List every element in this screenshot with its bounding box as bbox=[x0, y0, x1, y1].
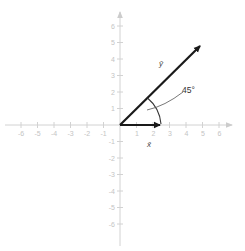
y-tick-label: -6 bbox=[109, 221, 115, 228]
x-tick-label: -3 bbox=[67, 130, 73, 137]
y-tick-label: -1 bbox=[109, 138, 115, 145]
x-tick-label: -6 bbox=[18, 130, 24, 137]
y-tick-label: 4 bbox=[111, 56, 115, 63]
x-tick-label: 5 bbox=[201, 130, 205, 137]
y-tick-label: 3 bbox=[111, 72, 115, 79]
vector-diagram: -6 -5 -4 -3 -2 -1 1 2 3 4 5 6 bbox=[0, 0, 245, 251]
x-tick-label: 1 bbox=[135, 130, 139, 137]
x-tick-label: 2 bbox=[152, 130, 156, 137]
vector-x: x̄ bbox=[120, 125, 160, 149]
x-tick-label: 3 bbox=[168, 130, 172, 137]
y-tick-label: 5 bbox=[111, 39, 115, 46]
x-tick-label: -4 bbox=[51, 130, 57, 137]
vector-y-label: ȳ bbox=[158, 59, 164, 68]
y-tick-label: -2 bbox=[109, 155, 115, 162]
angle-label: 45° bbox=[182, 85, 195, 95]
y-tick-label: 6 bbox=[111, 23, 115, 30]
x-tick-label: 4 bbox=[185, 130, 189, 137]
y-tick-label: -3 bbox=[109, 171, 115, 178]
x-tick-label: -1 bbox=[100, 130, 106, 137]
y-tick-label: -5 bbox=[109, 204, 115, 211]
y-tick-label: -4 bbox=[109, 188, 115, 195]
vector-x-label: x̄ bbox=[146, 140, 152, 149]
x-tick-label: -2 bbox=[84, 130, 90, 137]
y-tick-label: 2 bbox=[111, 89, 115, 96]
x-tick-label: 6 bbox=[218, 130, 222, 137]
x-tick-label: -5 bbox=[34, 130, 40, 137]
y-tick-label: 1 bbox=[111, 105, 115, 112]
